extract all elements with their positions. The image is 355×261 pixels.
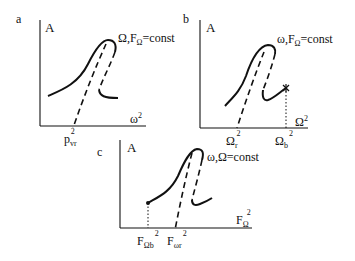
x-axis-base: Ω	[295, 115, 304, 129]
tick-base: Ω	[226, 134, 235, 148]
panel-c-tick-f-omega-r: Fωr2	[167, 235, 186, 247]
tick-sup: 2	[289, 129, 293, 138]
panel-a-x-axis-label: ω2	[130, 113, 142, 125]
x-axis-sup: 2	[304, 114, 308, 123]
tick-sub: vr	[70, 139, 77, 148]
tick-base: F	[167, 234, 174, 248]
panel-b-bifurcation-marker	[283, 84, 289, 92]
condition-pre: ω,Ω=const	[207, 150, 259, 164]
x-axis-base: ω	[130, 112, 138, 126]
tick-sub: ωr	[174, 241, 182, 250]
tick-sup: 2	[71, 127, 75, 136]
panel-a-curve	[48, 40, 118, 128]
panel-b-tick-omega-b: Ωb2	[275, 135, 292, 147]
tick-sub: b	[284, 141, 288, 150]
panel-c-curve	[148, 149, 212, 230]
x-axis-sup: 2	[247, 208, 251, 217]
panel-b-curve	[225, 45, 286, 128]
panel-a-tick-pvr: pvr2	[64, 133, 81, 145]
condition-post: =const	[143, 31, 175, 45]
panel-c-x-axis-label: FΩ2	[236, 214, 253, 226]
tick-base: Ω	[275, 134, 284, 148]
tick-sup: 2	[183, 229, 187, 238]
panel-c-label: c	[97, 146, 102, 158]
panel-a-label: a	[16, 13, 21, 25]
panel-c-endpoint-dot	[146, 201, 150, 205]
panel-c-condition: ω,Ω=const	[207, 151, 259, 163]
x-axis-base: F	[236, 213, 243, 227]
panel-c-tick-f-omega-b: FΩb2	[137, 235, 158, 247]
tick-sup: 2	[155, 229, 159, 238]
tick-sub: Ωb	[144, 241, 154, 250]
tick-base: F	[137, 234, 144, 248]
panel-a-condition: Ω,FΩ=const	[118, 32, 175, 44]
tick-sup: 2	[237, 129, 241, 138]
panel-b-x-axis-label: Ω2	[295, 116, 308, 128]
x-axis-sub: Ω	[243, 220, 249, 229]
condition-post: =const	[301, 32, 333, 46]
panel-b-y-axis-label: A	[206, 21, 215, 34]
x-axis-sup: 2	[138, 111, 142, 120]
condition-pre: ω,F	[277, 32, 295, 46]
panel-b-tick-omega-r: Ωr2	[226, 135, 242, 147]
panel-c-y-axis-label: A	[127, 141, 136, 154]
panel-a-y-axis-label: A	[45, 21, 54, 34]
panel-b-condition: ω,FΩ=const	[277, 33, 333, 45]
condition-pre: Ω,F	[118, 31, 137, 45]
panel-b-label: b	[183, 13, 189, 25]
